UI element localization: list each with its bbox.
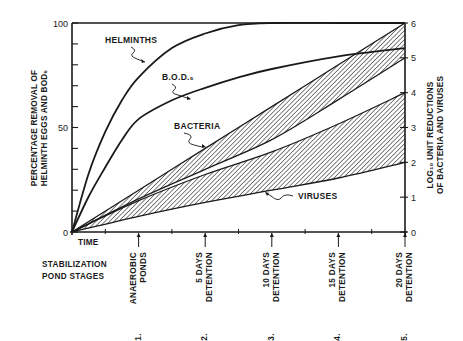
- stage-4-label: DETENTION: [338, 252, 347, 302]
- right-tick-label: 2: [411, 158, 416, 168]
- helminths-label: HELMINTHS: [105, 35, 157, 45]
- stage-3-label: 10 DAYS: [262, 252, 271, 288]
- stage-4-number: 4.: [333, 333, 342, 340]
- stage-3-label: DETENTION: [272, 252, 281, 302]
- pond-stages: ANAEROBICPONDS1.5 DAYSDETENTION2.10 DAYS…: [129, 233, 414, 341]
- stage-3-number: 3.: [267, 333, 276, 340]
- viruses-annotation: VIRUSES: [265, 191, 337, 201]
- bacteria-label: BACTERIA: [174, 121, 220, 131]
- right-tick-label: 6: [411, 19, 416, 29]
- stabilization-pond-chart: 050100 0123456 PERCENTAGE REMOVAL OF HEL…: [0, 0, 463, 341]
- stage-5-label: 20 DAYS: [395, 252, 404, 288]
- left-y-axis-label-line1: PERCENTAGE REMOVAL OF: [30, 70, 39, 187]
- stage-title-line1: STABILIZATION: [42, 260, 107, 269]
- left-y-axis: 050100: [53, 19, 78, 238]
- stage-1-label: PONDS: [139, 252, 148, 283]
- right-tick-label: 3: [411, 123, 416, 133]
- right-tick-label: 1: [411, 193, 416, 203]
- right-y-axis-label-line2: OF BACTERIA AND VIRUSES: [436, 76, 445, 195]
- x-axis-label: TIME: [78, 238, 99, 247]
- right-tick-label: 5: [411, 53, 416, 63]
- left-y-axis-label-line2: HELMINTH EGGS AND BOD₅: [40, 70, 49, 187]
- viruses-band: [72, 93, 405, 232]
- stage-1-label: ANAEROBIC: [129, 252, 138, 304]
- stage-2: 5 DAYSDETENTION2.: [195, 233, 214, 341]
- stage-2-label: 5 DAYS: [195, 252, 204, 283]
- right-tick-label: 0: [411, 228, 416, 238]
- left-tick-label: 50: [58, 123, 68, 133]
- stage-5: 20 DAYSDETENTION5.: [395, 233, 414, 341]
- helminths-annotation: HELMINTHS: [105, 35, 157, 63]
- left-tick-label: 0: [63, 228, 68, 238]
- stage-1: ANAEROBICPONDS1.: [129, 233, 148, 341]
- viruses-label: VIRUSES: [298, 191, 337, 201]
- stage-5-number: 5.: [400, 333, 409, 340]
- stage-5-label: DETENTION: [405, 252, 414, 302]
- stage-4-label: 15 DAYS: [328, 252, 337, 288]
- stage-2-number: 2.: [200, 333, 209, 340]
- stage-2-label: DETENTION: [205, 252, 214, 302]
- bod-label: B.O.D.₅: [162, 72, 194, 82]
- right-tick-label: 4: [411, 88, 416, 98]
- stage-title-line2: POND STAGES: [42, 272, 105, 281]
- bod-annotation: B.O.D.₅: [162, 72, 194, 100]
- stage-4: 15 DAYSDETENTION4.: [328, 233, 347, 341]
- right-y-axis-label-line1: LOG₁₀ UNIT REDUCTIONS: [426, 81, 435, 188]
- left-tick-label: 100: [53, 19, 68, 29]
- stage-3: 10 DAYSDETENTION3.: [262, 233, 281, 341]
- stage-1-number: 1.: [134, 333, 143, 340]
